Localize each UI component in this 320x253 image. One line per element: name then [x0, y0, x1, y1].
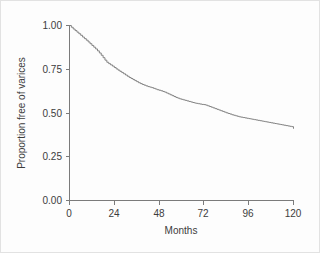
x-axis-tick-labels: 0 24 48 72 96 120: [66, 208, 302, 219]
x-tick-label-2: 48: [153, 208, 165, 219]
figure-canvas: 0.00 0.25 0.50 0.75 1.00 0 24 48 72: [1, 1, 319, 252]
y-tick-label-1: 0.25: [43, 151, 63, 162]
y-tick-label-2: 0.50: [43, 108, 63, 119]
y-tick-label-4: 1.00: [43, 20, 63, 31]
survival-curve: [70, 26, 294, 129]
x-tick-label-4: 96: [242, 208, 254, 219]
y-tick-label-0: 0.00: [43, 195, 63, 206]
x-tick-label-3: 72: [197, 208, 209, 219]
y-tick-label-3: 0.75: [43, 64, 63, 75]
x-axis-ticks: [70, 201, 294, 205]
y-axis-ticks: [66, 26, 70, 201]
figure-container: 0.00 0.25 0.50 0.75 1.00 0 24 48 72: [0, 0, 320, 253]
y-axis-title: Proportion free of varices: [16, 57, 27, 169]
x-tick-label-0: 0: [66, 208, 72, 219]
x-tick-label-1: 24: [108, 208, 120, 219]
y-axis-tick-labels: 0.00 0.25 0.50 0.75 1.00: [43, 20, 63, 206]
x-tick-label-5: 120: [285, 208, 302, 219]
km-survival-chart: 0.00 0.25 0.50 0.75 1.00 0 24 48 72: [1, 1, 319, 252]
x-axis-title: Months: [165, 225, 198, 236]
